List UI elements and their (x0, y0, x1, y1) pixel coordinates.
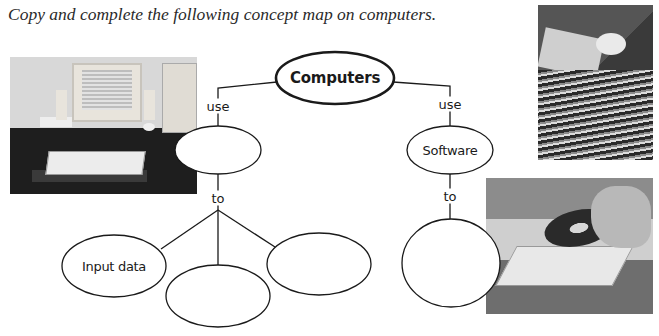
input-data-node-label: Input data (82, 259, 146, 274)
root-node-label: Computers (290, 69, 380, 87)
connector-to-input-data (161, 210, 218, 249)
connector-to-right (218, 210, 275, 247)
software-leaf-node-shape (402, 219, 500, 307)
left-node-shape (175, 126, 261, 174)
middle-leaf-node-shape (166, 265, 270, 327)
software-node-label: Software (423, 143, 478, 158)
link-label-right-to: to (442, 189, 457, 204)
link-label-left-to: to (210, 191, 225, 206)
concept-map-graphics (0, 0, 659, 336)
link-label-right-use: use (437, 97, 462, 112)
link-label-left-use: use (205, 99, 230, 114)
right-leaf-node-shape (267, 233, 371, 295)
